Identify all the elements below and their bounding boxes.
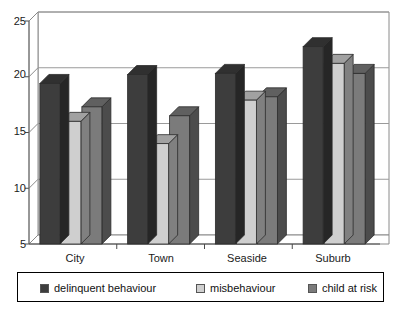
chart-legend: delinquent behaviour misbehaviour child … [17,272,384,302]
x-category-label-town: Town [133,253,189,264]
bar-town-series-1 [128,66,157,244]
chart-figure: 25 20 15 10 5 City Town Seaside Suburb d… [0,0,403,315]
bar-seaside-series-1 [215,64,244,244]
x-category-label-city: City [47,253,103,264]
legend-swatch-icon-delinquent-behaviour [40,284,49,293]
bar-city-series-1 [40,74,69,244]
legend-swatch-icon-misbehaviour [196,284,205,293]
legend-item-child-at-risk: child at risk [308,282,377,295]
legend-item-misbehaviour: misbehaviour [196,282,275,295]
legend-label-misbehaviour: misbehaviour [210,283,275,294]
bar-suburb-series-1 [303,38,332,244]
legend-swatch-icon-child-at-risk [308,284,317,293]
legend-item-delinquent-behaviour: delinquent behaviour [40,282,156,295]
y-tick-label-5: 5 [4,239,26,250]
y-tick-label-10: 10 [4,183,26,194]
plot-area: 25 20 15 10 5 City Town Seaside Suburb [0,0,403,262]
y-tick-label-15: 15 [4,126,26,137]
legend-label-delinquent-behaviour: delinquent behaviour [54,283,156,294]
y-tick-label-25: 25 [4,16,26,27]
x-category-label-suburb: Suburb [303,253,363,264]
bar-chart-svg [0,0,403,262]
y-tick-label-20: 20 [4,69,26,80]
x-category-label-seaside: Seaside [216,253,278,264]
legend-label-child-at-risk: child at risk [322,283,377,294]
